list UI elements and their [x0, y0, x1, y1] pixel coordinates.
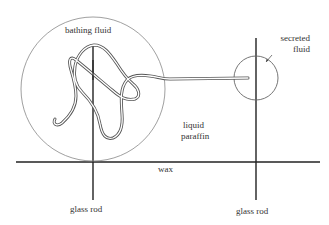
diagram-canvas: bathing fluid secreted fluid liquid para… — [0, 0, 329, 225]
label-liquid-paraffin-line1: liquid — [183, 120, 204, 130]
label-glass-rod-left: glass rod — [70, 204, 102, 214]
label-secreted-fluid-line1: secreted — [264, 33, 310, 43]
label-secreted-fluid-line2: fluid — [264, 44, 310, 54]
tubule — [54, 45, 248, 138]
label-bathing-fluid: bathing fluid — [65, 25, 111, 35]
label-wax: wax — [158, 164, 173, 174]
label-glass-rod-right: glass rod — [236, 206, 268, 216]
label-liquid-paraffin-line2: paraffin — [181, 131, 209, 141]
